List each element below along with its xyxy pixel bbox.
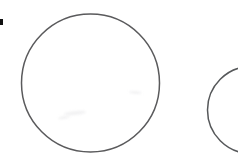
drawing-canvas <box>0 0 238 159</box>
small-circle-shape <box>208 67 239 154</box>
figure-svg <box>0 0 238 159</box>
corner-black-mark <box>0 19 3 25</box>
large-circle-shape <box>22 14 160 152</box>
